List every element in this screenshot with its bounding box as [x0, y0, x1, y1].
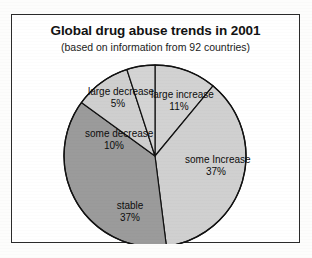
pie-label-some-decrease: some decrease 10% [85, 128, 143, 151]
figure-page: Global drug abuse trends in 2001 (based … [0, 0, 312, 258]
pie-label-stable-value: 37% [102, 212, 158, 224]
pie-label-some-increase-name: some Increase [185, 154, 247, 166]
pie-label-some-decrease-value: 10% [85, 140, 143, 152]
figure-frame: Global drug abuse trends in 2001 (based … [11, 14, 300, 243]
pie-label-large-decrease-value: 5% [88, 98, 148, 110]
pie-label-stable: stable 37% [102, 200, 158, 223]
pie-label-large-decrease: large decrease 5% [88, 86, 148, 109]
pie-label-some-increase-value: 37% [185, 166, 247, 178]
pie-label-large-decrease-name: large decrease [88, 86, 148, 98]
pie-label-large-increase-value: 11% [151, 101, 207, 113]
pie-label-some-decrease-name: some decrease [85, 128, 143, 140]
pie-label-large-increase-name: large increase [151, 89, 207, 101]
pie-label-stable-name: stable [102, 200, 158, 212]
pie-label-large-increase: large increase 11% [151, 89, 207, 112]
pie-label-some-increase: some Increase 37% [185, 154, 247, 177]
pie-chart [12, 15, 312, 258]
